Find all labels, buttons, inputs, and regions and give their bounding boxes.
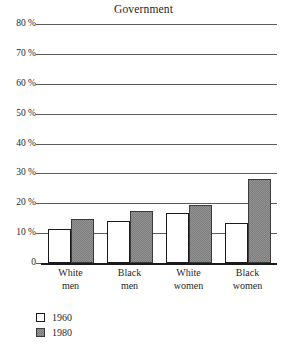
legend-label-1960: 1960 bbox=[52, 313, 72, 323]
axis-baseline bbox=[41, 263, 277, 265]
x-axis-label-line-2: men bbox=[100, 279, 159, 292]
bar-chart: Government 80 %70 %60 %50 %40 %30 %20 %1… bbox=[0, 0, 287, 349]
y-tick-mark-0 bbox=[36, 263, 41, 264]
x-axis-label-white-women: Whitewomen bbox=[159, 266, 218, 292]
bar-white-men-1960 bbox=[48, 229, 71, 263]
y-tick-label-70: 70 % bbox=[2, 49, 36, 59]
x-axis-label-line-1: Black bbox=[118, 267, 141, 278]
y-tick-label-20: 20 % bbox=[2, 198, 36, 208]
x-axis-label-line-1: White bbox=[176, 267, 200, 278]
chart-title: Government bbox=[0, 3, 287, 15]
y-tick-label-0: 0 bbox=[2, 258, 36, 268]
x-axis-label-line-2: men bbox=[41, 279, 100, 292]
x-axis-label-line-1: White bbox=[58, 267, 82, 278]
y-tick-label-10: 10 % bbox=[2, 228, 36, 238]
bar-black-women-1980 bbox=[248, 179, 271, 263]
chart-legend: 19601980 bbox=[36, 311, 156, 341]
gray-swatch bbox=[36, 328, 45, 337]
y-tick-label-40: 40 % bbox=[2, 139, 36, 149]
x-axis-label-line-1: Black bbox=[236, 267, 259, 278]
x-axis-category-labels: WhitemenBlackmenWhitewomenBlackwomen bbox=[41, 266, 277, 300]
bar-black-men-1980 bbox=[130, 211, 153, 263]
bar-white-women-1960 bbox=[166, 213, 189, 263]
x-axis-label-white-men: Whitemen bbox=[41, 266, 100, 292]
bar-white-women-1980 bbox=[189, 205, 212, 263]
y-tick-label-80: 80 % bbox=[2, 19, 36, 29]
legend-item-1960[interactable]: 1960 bbox=[36, 311, 156, 324]
bar-white-men-1980 bbox=[71, 219, 94, 263]
y-tick-label-60: 60 % bbox=[2, 79, 36, 89]
x-axis-label-black-women: Blackwomen bbox=[218, 266, 277, 292]
white-swatch bbox=[36, 313, 45, 322]
bars-area bbox=[41, 24, 277, 263]
x-axis-label-black-men: Blackmen bbox=[100, 266, 159, 292]
legend-item-1980[interactable]: 1980 bbox=[36, 326, 156, 339]
x-axis-label-line-2: women bbox=[218, 279, 277, 292]
x-axis-label-line-2: women bbox=[159, 279, 218, 292]
y-tick-label-30: 30 % bbox=[2, 168, 36, 178]
bar-black-women-1960 bbox=[225, 223, 248, 263]
legend-label-1980: 1980 bbox=[52, 328, 72, 338]
bar-black-men-1960 bbox=[107, 221, 130, 263]
y-tick-label-50: 50 % bbox=[2, 109, 36, 119]
